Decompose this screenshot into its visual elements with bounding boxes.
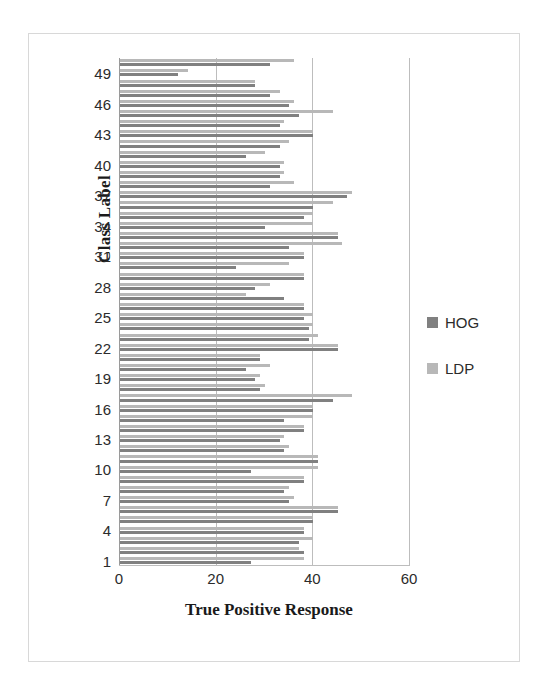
bar-hog[interactable] xyxy=(120,368,246,371)
bar-ldp[interactable] xyxy=(120,222,313,225)
bar-hog[interactable] xyxy=(120,175,280,178)
bar-ldp[interactable] xyxy=(120,120,284,123)
bar-ldp[interactable] xyxy=(120,384,265,387)
bar-ldp[interactable] xyxy=(120,476,304,479)
bar-hog[interactable] xyxy=(120,266,236,269)
bar-ldp[interactable] xyxy=(120,425,304,428)
bar-hog[interactable] xyxy=(120,226,265,229)
bar-hog[interactable] xyxy=(120,277,304,280)
bar-ldp[interactable] xyxy=(120,283,270,286)
bar-hog[interactable] xyxy=(120,104,289,107)
bar-ldp[interactable] xyxy=(120,313,313,316)
bar-hog[interactable] xyxy=(120,134,313,137)
bar-ldp[interactable] xyxy=(120,466,318,469)
bar-ldp[interactable] xyxy=(120,171,284,174)
bar-hog[interactable] xyxy=(120,73,178,76)
bar-hog[interactable] xyxy=(120,520,313,523)
bar-ldp[interactable] xyxy=(120,415,313,418)
bar-hog[interactable] xyxy=(120,84,255,87)
bar-hog[interactable] xyxy=(120,338,309,341)
bar-hog[interactable] xyxy=(120,206,313,209)
bar-hog[interactable] xyxy=(120,246,289,249)
bar-ldp[interactable] xyxy=(120,69,188,72)
bar-hog[interactable] xyxy=(120,94,270,97)
bar-ldp[interactable] xyxy=(120,506,338,509)
bar-ldp[interactable] xyxy=(120,110,333,113)
bar-ldp[interactable] xyxy=(120,100,294,103)
bar-hog[interactable] xyxy=(120,490,284,493)
bar-hog[interactable] xyxy=(120,195,347,198)
bar-hog[interactable] xyxy=(120,510,338,513)
bar-ldp[interactable] xyxy=(120,374,260,377)
bar-ldp[interactable] xyxy=(120,303,304,306)
bar-ldp[interactable] xyxy=(120,354,260,357)
bar-hog[interactable] xyxy=(120,165,280,168)
bar-hog[interactable] xyxy=(120,348,338,351)
bar-hog[interactable] xyxy=(120,185,270,188)
bar-ldp[interactable] xyxy=(120,252,304,255)
bar-ldp[interactable] xyxy=(120,445,289,448)
bar-ldp[interactable] xyxy=(120,130,313,133)
bar-ldp[interactable] xyxy=(120,242,342,245)
bar-hog[interactable] xyxy=(120,256,304,259)
bar-ldp[interactable] xyxy=(120,455,318,458)
bar-hog[interactable] xyxy=(120,327,309,330)
bar-hog[interactable] xyxy=(120,409,313,412)
bar-ldp[interactable] xyxy=(120,323,313,326)
bar-ldp[interactable] xyxy=(120,486,289,489)
bar-ldp[interactable] xyxy=(120,547,299,550)
bar-hog[interactable] xyxy=(120,531,304,534)
bar-hog[interactable] xyxy=(120,307,304,310)
bar-ldp[interactable] xyxy=(120,90,280,93)
bar-hog[interactable] xyxy=(120,419,284,422)
bar-hog[interactable] xyxy=(120,114,299,117)
bar-hog[interactable] xyxy=(120,216,304,219)
bar-ldp[interactable] xyxy=(120,161,284,164)
bar-ldp[interactable] xyxy=(120,262,289,265)
bar-hog[interactable] xyxy=(120,561,251,564)
bar-ldp[interactable] xyxy=(120,59,294,62)
bar-ldp[interactable] xyxy=(120,364,270,367)
bar-ldp[interactable] xyxy=(120,151,265,154)
bar-hog[interactable] xyxy=(120,317,304,320)
bar-hog[interactable] xyxy=(120,449,284,452)
bar-hog[interactable] xyxy=(120,429,304,432)
bar-ldp[interactable] xyxy=(120,516,313,519)
bar-ldp[interactable] xyxy=(120,181,294,184)
bar-hog[interactable] xyxy=(120,297,284,300)
bar-hog[interactable] xyxy=(120,378,255,381)
bar-ldp[interactable] xyxy=(120,344,338,347)
bar-hog[interactable] xyxy=(120,480,304,483)
bar-ldp[interactable] xyxy=(120,527,304,530)
bar-ldp[interactable] xyxy=(120,191,352,194)
bar-ldp[interactable] xyxy=(120,394,352,397)
bar-hog[interactable] xyxy=(120,287,255,290)
bar-ldp[interactable] xyxy=(120,273,304,276)
bar-hog[interactable] xyxy=(120,236,338,239)
bar-ldp[interactable] xyxy=(120,293,246,296)
bar-hog[interactable] xyxy=(120,460,318,463)
bar-hog[interactable] xyxy=(120,399,333,402)
bar-ldp[interactable] xyxy=(120,405,313,408)
bar-hog[interactable] xyxy=(120,358,260,361)
bar-ldp[interactable] xyxy=(120,201,333,204)
bar-hog[interactable] xyxy=(120,124,280,127)
bar-ldp[interactable] xyxy=(120,557,304,560)
bar-hog[interactable] xyxy=(120,388,260,391)
bar-hog[interactable] xyxy=(120,551,304,554)
bar-ldp[interactable] xyxy=(120,140,289,143)
bar-ldp[interactable] xyxy=(120,496,294,499)
bar-hog[interactable] xyxy=(120,145,280,148)
bar-hog[interactable] xyxy=(120,155,246,158)
bar-hog[interactable] xyxy=(120,500,289,503)
bar-ldp[interactable] xyxy=(120,537,313,540)
bar-ldp[interactable] xyxy=(120,334,318,337)
bar-hog[interactable] xyxy=(120,470,251,473)
bar-ldp[interactable] xyxy=(120,80,255,83)
bar-ldp[interactable] xyxy=(120,212,313,215)
bar-ldp[interactable] xyxy=(120,232,338,235)
bar-hog[interactable] xyxy=(120,541,299,544)
bar-hog[interactable] xyxy=(120,439,280,442)
bar-hog[interactable] xyxy=(120,63,270,66)
bar-ldp[interactable] xyxy=(120,435,284,438)
